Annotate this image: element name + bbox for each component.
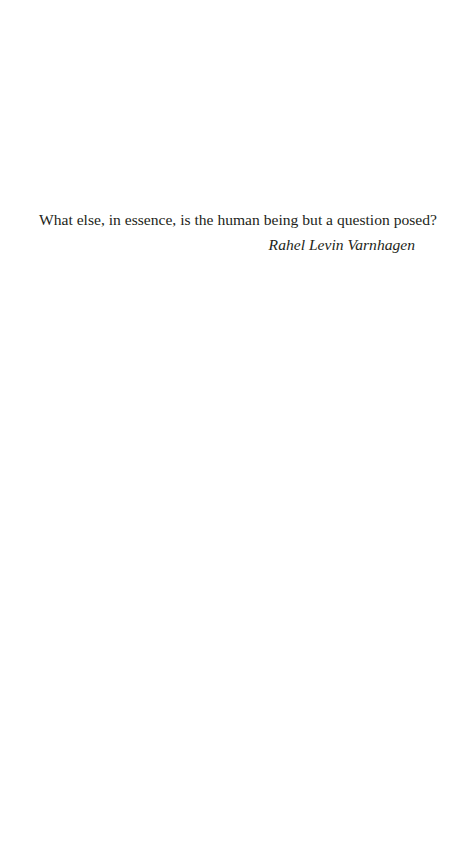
epigraph: What else, in essence, is the human bein… (39, 209, 415, 256)
epigraph-quote: What else, in essence, is the human bein… (39, 209, 415, 231)
epigraph-attribution: Rahel Levin Varnhagen (39, 234, 415, 256)
